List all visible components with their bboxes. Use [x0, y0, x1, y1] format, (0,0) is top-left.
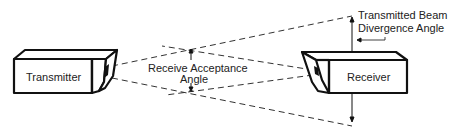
- receiver-label: Receiver: [347, 71, 390, 83]
- beam-angle-label-line1: Transmitted Beam: [358, 9, 447, 21]
- receive-angle-label-line2: Angle: [180, 73, 208, 85]
- transmitter-label: Transmitter: [26, 71, 81, 83]
- beam-angle-label-line2: Divergence Angle: [358, 22, 444, 34]
